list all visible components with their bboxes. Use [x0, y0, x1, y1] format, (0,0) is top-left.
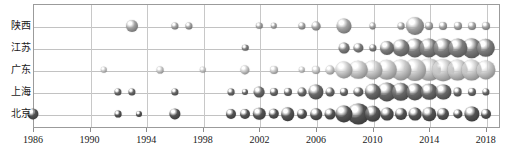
bubble-point: [422, 107, 436, 121]
x-axis-label: 2018: [464, 134, 508, 145]
x-axis-label: 2002: [237, 134, 281, 145]
bubble-point: [114, 111, 121, 118]
x-axis-label: 1998: [181, 134, 225, 145]
bubble-point: [397, 23, 404, 30]
bubble-point: [437, 108, 449, 120]
x-axis-tick: [146, 128, 147, 132]
bubble-point: [468, 88, 476, 96]
bubble-point: [468, 22, 476, 30]
bubble-point: [481, 109, 491, 119]
bubble-point: [254, 87, 265, 98]
bubble-point: [326, 88, 335, 97]
bubble-chart: 198619901994199820022006201020142018陕西江苏…: [0, 0, 508, 165]
bubble-point: [136, 111, 142, 117]
bubble-point: [325, 109, 336, 120]
bubble-point: [406, 17, 424, 35]
x-axis-tick: [373, 128, 374, 132]
x-axis-label: 2010: [351, 134, 395, 145]
x-axis-tick: [33, 128, 34, 132]
bubble-point: [284, 88, 292, 96]
x-axis-label: 2014: [407, 134, 451, 145]
bubble-point: [409, 108, 422, 121]
bubble-point: [482, 22, 490, 30]
bubble-point: [425, 22, 433, 30]
y-axis-label-4: 北京: [0, 109, 31, 119]
bubble-point: [337, 19, 352, 34]
bubble-point: [312, 22, 321, 31]
gridline-vertical: [91, 5, 92, 127]
bubble-point: [126, 20, 138, 32]
bubble-point: [380, 41, 394, 55]
bubble-point: [297, 88, 306, 97]
x-axis-tick: [203, 128, 204, 132]
x-axis-label: 1994: [124, 134, 168, 145]
x-axis-label: 1986: [11, 134, 55, 145]
bubble-point: [157, 67, 164, 74]
bubble-point: [240, 109, 250, 119]
x-axis-tick: [429, 128, 430, 132]
bubble-point: [242, 89, 248, 95]
bubble-point: [453, 88, 462, 97]
bubble-point: [380, 108, 393, 121]
bubble-point: [395, 108, 407, 120]
bubble-point: [270, 88, 278, 96]
x-axis-label: 1990: [68, 134, 112, 145]
y-axis-label-2: 广东: [0, 65, 31, 75]
y-axis-label-0: 陕西: [0, 21, 31, 31]
x-axis-label: 2006: [294, 134, 338, 145]
gridline-vertical: [147, 5, 148, 127]
bubble-point: [310, 108, 322, 120]
bubble-point: [439, 22, 447, 30]
gridline-vertical: [204, 5, 205, 127]
bubble-point: [312, 66, 320, 74]
bubble-point: [326, 66, 335, 75]
y-axis-label-1: 江苏: [0, 43, 31, 53]
x-axis-tick: [486, 128, 487, 132]
bubble-point: [228, 89, 235, 96]
bubble-point: [454, 22, 462, 30]
bubble-point: [226, 109, 236, 119]
bubble-point: [340, 88, 348, 96]
bubble-point: [297, 109, 307, 119]
x-axis-tick: [259, 128, 260, 132]
bubble-point: [339, 43, 350, 54]
bubble-point: [369, 23, 376, 30]
bubble-point: [281, 107, 295, 121]
y-axis-label-3: 上海: [0, 87, 31, 97]
x-axis-tick: [316, 128, 317, 132]
bubble-point: [270, 66, 278, 74]
x-axis-tick: [90, 128, 91, 132]
